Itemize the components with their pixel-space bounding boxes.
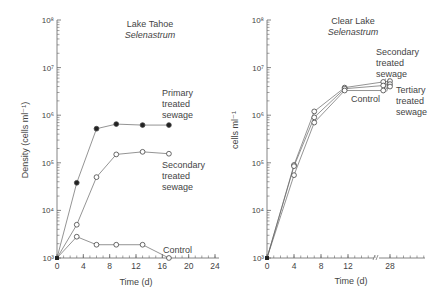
svg-text:Primary: Primary: [162, 88, 193, 98]
svg-text:Secondary: Secondary: [376, 47, 420, 57]
data-point: [167, 123, 172, 128]
x-tick-label: 28: [385, 261, 395, 271]
svg-text:sewage: sewage: [376, 69, 407, 79]
axis-break: [376, 255, 378, 260]
y-tick-label: 10⁶: [252, 111, 264, 120]
x-tick-label: 8: [319, 261, 324, 271]
legend-secondary: Secondary treated sewage: [162, 160, 206, 192]
x-axis-label: Time (d): [119, 277, 152, 287]
data-point: [74, 234, 79, 239]
data-point: [342, 88, 347, 93]
data-point: [114, 242, 119, 247]
data-point: [167, 256, 172, 261]
x-tick-label: 4: [292, 261, 297, 271]
x-tick-label: 0: [55, 261, 60, 271]
data-point: [74, 222, 79, 227]
svg-text:Control: Control: [163, 245, 192, 255]
data-point: [292, 173, 297, 178]
y-axis-label: Density (cells ml⁻¹): [20, 102, 30, 179]
chart-title: Lake Tahoe: [127, 19, 173, 29]
x-axis-label: Time (d): [334, 276, 367, 286]
chart-title: Clear Lake: [331, 16, 375, 26]
x-tick-label: 16: [158, 261, 168, 271]
data-point: [312, 120, 317, 125]
series-tertiary-treated-sewage: [265, 82, 392, 260]
svg-text:Control: Control: [351, 94, 380, 104]
data-point: [312, 115, 317, 120]
svg-text:treated: treated: [396, 96, 424, 106]
svg-text:Secondary: Secondary: [162, 160, 206, 170]
chart-subtitle: Selenastrum: [328, 27, 379, 37]
data-point: [381, 88, 386, 93]
x-tick-label: 4: [81, 261, 86, 271]
data-point: [74, 180, 79, 185]
y-tick-label: 10³: [42, 254, 54, 263]
x-tick-label: 8: [107, 261, 112, 271]
y-tick-label: 10⁵: [42, 159, 54, 168]
legend-control: Control: [351, 94, 380, 104]
y-axis-label: cells ml⁻¹: [230, 111, 240, 149]
data-point: [94, 242, 99, 247]
data-point: [388, 84, 393, 89]
svg-text:treated: treated: [376, 58, 404, 68]
legend-control: Control: [163, 245, 192, 255]
svg-text:Tertiary: Tertiary: [396, 85, 426, 95]
data-point: [94, 175, 99, 180]
chart-subtitle: Selenastrum: [125, 30, 176, 40]
series-control: [265, 84, 392, 260]
x-tick-label: 20: [184, 261, 194, 271]
y-tick-label: 10⁴: [42, 206, 55, 215]
series-control: [55, 234, 171, 260]
y-tick-label: 10⁸: [252, 16, 264, 25]
y-tick-label: 10⁷: [42, 64, 54, 73]
series-secondary-treated-sewage: [55, 149, 171, 259]
clear-lake-chart: 10³10⁴10⁵10⁶10⁷10⁸0481228 Clear Lake Sel…: [230, 16, 427, 286]
axes: 10³10⁴10⁵10⁶10⁷10⁸04812162024: [42, 16, 220, 271]
x-tick-label: 24: [210, 261, 220, 271]
svg-text:sewage: sewage: [162, 110, 193, 120]
data-point: [167, 151, 172, 156]
data-point: [140, 242, 145, 247]
y-tick-label: 10⁸: [42, 16, 54, 25]
y-tick-label: 10⁴: [252, 206, 265, 215]
y-tick-label: 10⁵: [252, 159, 264, 168]
y-tick-label: 10⁷: [252, 64, 264, 73]
series-primary-treated-sewage: [55, 122, 171, 260]
data-point: [114, 122, 119, 127]
legend-secondary: Secondary treated sewage: [376, 47, 420, 79]
x-tick-label: 0: [265, 261, 270, 271]
legend-tertiary: Tertiary treated sewage: [396, 85, 427, 117]
data-point: [114, 152, 119, 157]
data-point: [292, 164, 297, 169]
series-layer: [55, 122, 171, 261]
lake-tahoe-chart: 10³10⁴10⁵10⁶10⁷10⁸04812162024 Lake Tahoe…: [20, 16, 220, 287]
svg-text:sewage: sewage: [162, 182, 193, 192]
series-layer: [265, 79, 392, 260]
x-tick-label: 12: [343, 261, 353, 271]
legend-primary: Primary treated sewage: [162, 88, 193, 120]
y-tick-label: 10³: [252, 254, 264, 263]
svg-text:treated: treated: [162, 99, 190, 109]
figure: 10³10⁴10⁵10⁶10⁷10⁸04812162024 Lake Tahoe…: [0, 0, 447, 303]
x-tick-label: 12: [131, 261, 141, 271]
y-tick-label: 10⁶: [42, 111, 54, 120]
data-point: [94, 126, 99, 131]
svg-text:sewage: sewage: [396, 107, 427, 117]
data-point: [140, 123, 145, 128]
series-secondary-treated-sewage: [265, 79, 392, 260]
data-point: [312, 109, 317, 114]
data-point: [140, 149, 145, 154]
svg-text:treated: treated: [162, 171, 190, 181]
